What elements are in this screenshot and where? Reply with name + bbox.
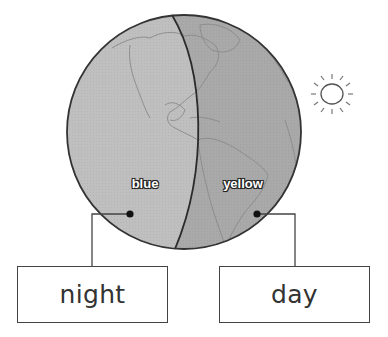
night-pointer-dot <box>126 210 133 217</box>
night-label-box: night <box>17 266 168 323</box>
day-side-color-label: yellow <box>223 176 263 191</box>
day-leader <box>257 214 295 266</box>
sun-icon <box>311 74 353 114</box>
day-label-text: day <box>271 280 318 309</box>
night-side-color-label: blue <box>132 176 159 191</box>
day-label-box: day <box>219 266 370 323</box>
globe <box>60 10 320 255</box>
night-label-text: night <box>60 280 126 309</box>
day-pointer-dot <box>253 210 260 217</box>
